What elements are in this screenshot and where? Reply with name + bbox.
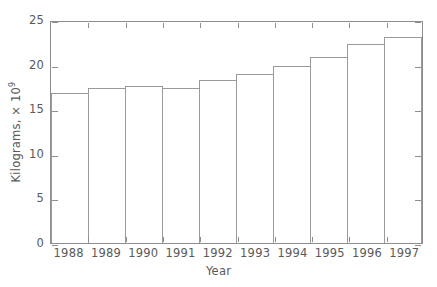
x-tick-2 — [126, 237, 127, 242]
x-tick-top-6 — [275, 23, 276, 28]
y-tick-5 — [52, 200, 58, 201]
x-tick-label-1997: 1997 — [380, 248, 428, 260]
bar-1994 — [273, 66, 311, 244]
y-tick-15 — [52, 111, 58, 112]
x-tick-top-2 — [126, 23, 127, 28]
x-tick-top-8 — [349, 23, 350, 28]
bar-1996 — [347, 44, 385, 243]
x-axis-title: Year — [0, 264, 437, 278]
bar-1992 — [199, 80, 237, 243]
bar-1991 — [162, 88, 200, 243]
x-tick-8 — [349, 237, 350, 242]
y-tick-label-0: 0 — [4, 238, 44, 250]
y-tick-right-25 — [415, 22, 421, 23]
bar-1997 — [384, 37, 422, 243]
bar-1993 — [236, 74, 274, 243]
y-tick-10 — [52, 156, 58, 157]
x-tick-top-3 — [163, 23, 164, 28]
bar-1989 — [88, 88, 126, 243]
x-tick-top-5 — [238, 23, 239, 28]
x-tick-4 — [200, 237, 201, 242]
y-tick-right-10 — [415, 156, 421, 157]
y-axis-title: Kilograms, × 109 — [9, 32, 23, 232]
bar-1988 — [51, 93, 89, 243]
x-tick-top-1 — [88, 23, 89, 28]
y-tick-20 — [52, 67, 58, 68]
plot-area — [50, 21, 423, 244]
x-tick-top-4 — [200, 23, 201, 28]
x-tick-9 — [387, 237, 388, 242]
bar-1990 — [125, 86, 163, 243]
x-tick-3 — [163, 237, 164, 242]
x-tick-top-7 — [312, 23, 313, 28]
y-tick-label-25: 25 — [4, 15, 44, 27]
y-tick-right-20 — [415, 67, 421, 68]
figure: 0510152025 19881989199019911992199319941… — [0, 0, 437, 287]
bar-series — [51, 22, 422, 243]
x-tick-1 — [88, 237, 89, 242]
y-axis-title-exponent: 9 — [8, 82, 17, 87]
y-tick-right-5 — [415, 200, 421, 201]
bar-1995 — [310, 57, 348, 243]
x-tick-6 — [275, 237, 276, 242]
x-tick-top-9 — [387, 23, 388, 28]
y-tick-25 — [52, 22, 58, 23]
x-tick-5 — [238, 237, 239, 242]
y-axis-title-text: Kilograms, × 10 — [9, 87, 23, 182]
x-tick-7 — [312, 237, 313, 242]
y-tick-right-15 — [415, 111, 421, 112]
